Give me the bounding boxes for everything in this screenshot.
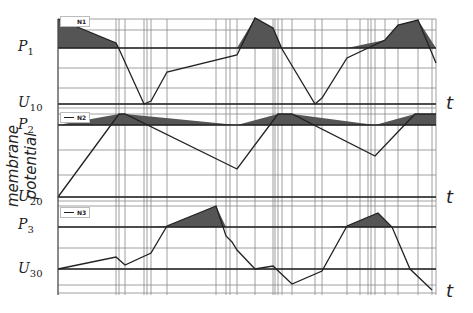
legend-swatch: [64, 117, 74, 118]
legend-n3: N3: [60, 207, 90, 218]
legend-swatch: [64, 21, 74, 22]
panel-n2: [58, 114, 436, 201]
u10-label: U10: [18, 94, 43, 113]
legend-n1: N1: [60, 16, 90, 27]
u30-label: U30: [18, 260, 43, 279]
legend-n2: N2: [60, 112, 90, 123]
legend-swatch: [64, 212, 74, 213]
grid: [58, 19, 436, 295]
panel-n3: [58, 206, 436, 293]
t-axis-label-3: t: [446, 280, 453, 301]
panels: [58, 18, 436, 295]
panel-n1: [58, 18, 436, 108]
p2-label: P2: [18, 116, 34, 135]
spike-chart: [0, 0, 473, 313]
u20-label: U20: [18, 188, 43, 207]
t-axis-label-2: t: [446, 186, 453, 207]
t-axis-label-1: t: [446, 92, 453, 113]
membrane-potential-line: [58, 114, 436, 197]
p3-label: P3: [18, 216, 34, 235]
above-threshold-shading: [58, 206, 432, 227]
p1-label: P1: [18, 38, 34, 57]
membrane-potential-line: [58, 18, 436, 104]
